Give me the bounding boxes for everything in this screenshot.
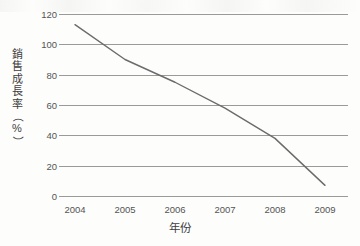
x-tick-label-2005: 2005 bbox=[114, 204, 135, 215]
y-axis-title-char-7: ） bbox=[11, 136, 23, 147]
y-tick-label-100: 100 bbox=[41, 39, 63, 50]
x-tick-label-2004: 2004 bbox=[64, 204, 85, 215]
y-axis-title-char-5: （ bbox=[11, 111, 23, 122]
y-axis-title-char-4: 率 bbox=[12, 98, 23, 110]
gridline-0 bbox=[63, 196, 348, 197]
y-axis-title: 銷 售 成 長 率 （ % ） bbox=[6, 48, 28, 147]
x-tick-label-2008: 2008 bbox=[264, 204, 285, 215]
x-tick-label-2007: 2007 bbox=[214, 204, 235, 215]
y-tick-label-40: 40 bbox=[46, 130, 63, 141]
x-axis-title: 年份 bbox=[0, 219, 360, 235]
plot-area: 020406080100120 200420052006200720082009 bbox=[63, 14, 348, 196]
y-axis-title-char-0: 銷 bbox=[12, 48, 23, 60]
y-axis-title-char-1: 售 bbox=[12, 60, 23, 72]
y-tick-label-120: 120 bbox=[41, 9, 63, 20]
y-tick-label-80: 80 bbox=[46, 69, 63, 80]
y-tick-label-60: 60 bbox=[46, 100, 63, 111]
line-chart: 銷 售 成 長 率 （ % ） 020406080100120 20042005… bbox=[0, 0, 360, 246]
y-axis-title-char-6: % bbox=[12, 122, 22, 134]
y-tick-label-20: 20 bbox=[46, 160, 63, 171]
y-axis-title-char-2: 成 bbox=[12, 73, 23, 85]
y-axis-title-char-3: 長 bbox=[12, 85, 23, 97]
data-series-line bbox=[63, 14, 348, 196]
y-tick-label-0: 0 bbox=[52, 191, 63, 202]
x-tick-label-2009: 2009 bbox=[314, 204, 335, 215]
x-tick-label-2006: 2006 bbox=[164, 204, 185, 215]
